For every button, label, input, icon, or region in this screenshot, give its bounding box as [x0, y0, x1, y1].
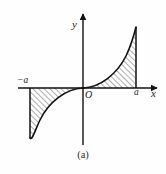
- tick-label-positive-a: a: [134, 88, 139, 98]
- x-axis-label: x: [151, 88, 156, 99]
- figure-caption: (a): [0, 150, 166, 161]
- tick-label-negative-a: −a: [17, 76, 28, 86]
- plot-canvas: [0, 0, 166, 174]
- y-axis-label: y: [72, 19, 77, 30]
- figure-container: y x O −a a (a): [0, 0, 166, 174]
- right-hatched-region: [83, 27, 136, 88]
- origin-label: O: [85, 90, 92, 100]
